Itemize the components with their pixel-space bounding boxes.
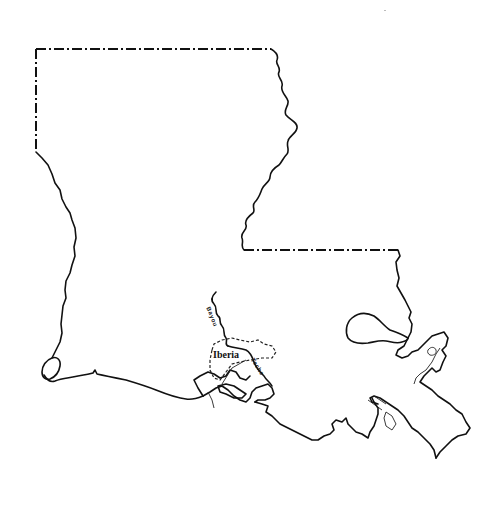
southeast-delta-coast [396,332,470,458]
pearl-river-border [396,250,412,338]
sabine-river-border [36,152,76,358]
lake-pontchartrain [346,314,408,344]
gulf-coast-central [255,398,378,440]
iberia-parish-label: Iberia [213,349,239,360]
mississippi-river-border [242,49,297,250]
delta-birdfoot-outer [370,396,436,458]
parish-line-south [208,392,214,408]
delta-marsh-lake [428,347,437,355]
scan-speck [384,10,386,11]
louisiana-outline-map [0,0,488,515]
gulf-coast-west [44,370,203,399]
delta-inner-channel [414,348,440,384]
barataria-marsh [384,412,396,430]
gulf-coast-vermilion [203,384,274,402]
